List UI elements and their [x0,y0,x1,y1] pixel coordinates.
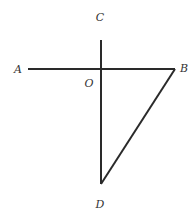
point-label-d: D [96,199,105,210]
point-label-a: A [14,64,22,75]
diagram-canvas [0,0,195,218]
point-label-c: C [96,12,104,23]
point-label-b: B [180,63,188,74]
point-label-o: O [84,78,93,89]
geometry-diagram: A B C O D [0,0,195,218]
segment-bd [101,69,175,184]
